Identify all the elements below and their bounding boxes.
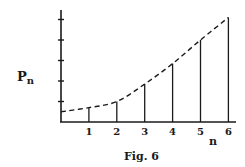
stem-lines	[89, 17, 229, 122]
x-tick-label: 2	[113, 126, 120, 137]
x-tick-label: 6	[225, 126, 232, 137]
x-tick-label: 5	[197, 126, 204, 137]
x-tick-label: 4	[169, 126, 176, 137]
figure-6-chart: 123456 Pn n Fig. 6	[0, 0, 245, 167]
y-axis-label: Pn	[17, 69, 35, 86]
x-tick-label: 1	[85, 126, 92, 137]
x-tick-label: 3	[141, 126, 148, 137]
x-axis-label: n	[209, 135, 217, 148]
y-axis	[58, 10, 64, 122]
figure-caption: Fig. 6	[124, 150, 159, 163]
